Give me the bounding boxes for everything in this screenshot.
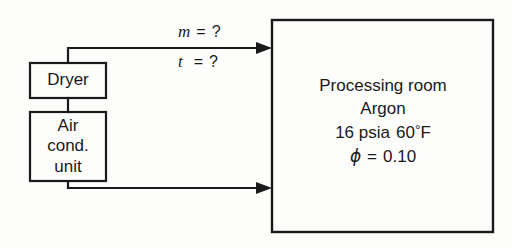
processing-room-temperature-unit: F (420, 123, 430, 142)
processing-room-title: Processing room (319, 75, 447, 98)
temperature-stream-label: t=? (178, 52, 218, 72)
dryer-box-label-group: Dryer (30, 63, 106, 98)
dryer-box-label: Dryer (47, 70, 89, 90)
humidity-equals: = (367, 147, 377, 166)
air-cond-unit-label-group: Air cond. unit (30, 112, 106, 181)
processing-room-humidity-line: ϕ=0.10 (350, 145, 416, 169)
mass-flow-value: ? (212, 23, 221, 40)
processing-room-temperature-value: 60 (396, 123, 415, 142)
temperature-equals: = (194, 53, 203, 70)
air-cond-unit-label-line3: unit (54, 157, 81, 177)
air-cond-unit-label-line1: Air (58, 116, 79, 136)
upper-duct-line (68, 48, 265, 63)
processing-room-label-group: Processing room Argon 16 psia60°F ϕ=0.10 (274, 72, 492, 172)
processing-room-state-line: 16 psia60°F (335, 121, 431, 145)
lower-duct-arrowhead (256, 182, 272, 194)
air-cond-unit-label-line2: cond. (47, 136, 89, 156)
temperature-symbol: t (178, 52, 183, 71)
processing-room-gas: Argon (360, 98, 405, 121)
diagram-canvas: Dryer Air cond. unit Processing room Arg… (0, 0, 512, 248)
upper-duct-arrowhead (256, 42, 272, 54)
temperature-value: ? (209, 53, 218, 70)
mass-flow-stream-label: m=? (178, 22, 221, 42)
phi-symbol: ϕ (350, 146, 361, 166)
mass-flow-equals: = (196, 23, 205, 40)
mass-flow-symbol: m (178, 22, 190, 41)
processing-room-pressure: 16 psia (335, 123, 390, 142)
processing-room-humidity-value: 0.10 (383, 147, 416, 166)
